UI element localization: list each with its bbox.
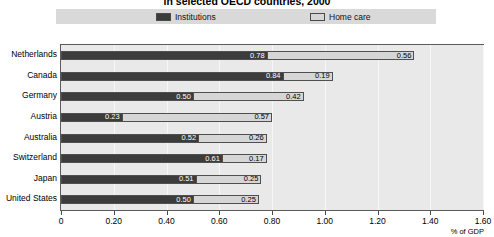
y-axis-label-switzerland: Switzerland bbox=[1, 152, 57, 162]
chart-title-text: in selected OECD countries, 2000 bbox=[0, 0, 494, 7]
bar-row: 0.230.57 bbox=[61, 107, 483, 128]
bar-segment-home-care[interactable]: 0.25 bbox=[193, 195, 259, 204]
stacked-bar[interactable]: 0.500.42 bbox=[61, 92, 304, 101]
x-axis-tick bbox=[272, 211, 273, 215]
y-axis-labels: NetherlandsCanadaGermanyAustriaAustralia… bbox=[0, 44, 57, 211]
bar-value-label: 0.17 bbox=[249, 155, 266, 163]
bar-value-label: 0.23 bbox=[105, 113, 122, 121]
bar-value-label: 0.50 bbox=[176, 93, 193, 101]
stacked-bar[interactable]: 0.500.25 bbox=[61, 195, 259, 204]
bar-segment-institutions[interactable]: 0.52 bbox=[61, 134, 198, 143]
y-axis-label-japan: Japan bbox=[1, 173, 57, 183]
legend-swatch-icon-home-care bbox=[310, 13, 325, 21]
y-axis-label-germany: Germany bbox=[1, 90, 57, 100]
bar-value-label: 0.78 bbox=[250, 52, 267, 60]
bar-value-label: 0.56 bbox=[397, 52, 414, 60]
bar-value-label: 0.52 bbox=[182, 134, 199, 142]
bar-segment-institutions[interactable]: 0.78 bbox=[61, 51, 267, 60]
bar-segment-institutions[interactable]: 0.61 bbox=[61, 154, 222, 163]
x-axis-unit-label: % of GDP bbox=[451, 227, 484, 236]
y-axis-label-netherlands: Netherlands bbox=[1, 49, 57, 59]
x-axis-tick-label: 1.20 bbox=[369, 216, 386, 226]
x-axis-tick-label: 1.00 bbox=[316, 216, 333, 226]
x-axis: % of GDP 00.200.400.600.801.001.201.401.… bbox=[60, 211, 484, 237]
bar-segment-home-care[interactable]: 0.25 bbox=[196, 175, 262, 184]
x-axis-tick-label: 0.20 bbox=[105, 216, 122, 226]
x-axis-tick-label: 0.40 bbox=[158, 216, 175, 226]
legend-label-institutions: Institutions bbox=[175, 12, 216, 22]
stacked-bar[interactable]: 0.610.17 bbox=[61, 154, 267, 163]
legend-swatch-icon-institutions bbox=[156, 13, 171, 21]
gridline bbox=[483, 45, 484, 210]
bar-value-label: 0.42 bbox=[286, 93, 303, 101]
bar-row: 0.840.19 bbox=[61, 66, 483, 87]
x-axis-tick bbox=[430, 211, 431, 215]
bar-segment-institutions[interactable]: 0.84 bbox=[61, 72, 283, 81]
bar-row: 0.520.26 bbox=[61, 128, 483, 149]
y-axis-label-australia: Australia bbox=[1, 132, 57, 142]
bar-segment-home-care[interactable]: 0.42 bbox=[193, 92, 304, 101]
bar-segment-home-care[interactable]: 0.26 bbox=[198, 134, 267, 143]
bar-segment-institutions[interactable]: 0.23 bbox=[61, 113, 122, 122]
bar-segment-home-care[interactable]: 0.19 bbox=[283, 72, 333, 81]
legend-label-home-care: Home care bbox=[329, 12, 371, 22]
y-axis-label-austria: Austria bbox=[1, 111, 57, 121]
bar-value-label: 0.19 bbox=[315, 72, 332, 80]
x-axis-tick bbox=[219, 211, 220, 215]
legend-item-institutions: Institutions bbox=[156, 11, 216, 22]
x-axis-tick bbox=[378, 211, 379, 215]
x-axis-tick bbox=[114, 211, 115, 215]
bar-row: 0.500.42 bbox=[61, 86, 483, 107]
x-axis-tick bbox=[61, 211, 62, 215]
chart-title: in selected OECD countries, 2000 bbox=[0, 0, 494, 9]
bar-segment-home-care[interactable]: 0.57 bbox=[122, 113, 272, 122]
stacked-bar[interactable]: 0.780.56 bbox=[61, 51, 414, 60]
bar-row: 0.780.56 bbox=[61, 45, 483, 66]
bar-row: 0.510.25 bbox=[61, 169, 483, 190]
bar-value-label: 0.25 bbox=[244, 175, 261, 183]
x-axis-tick-label: 0 bbox=[59, 216, 64, 226]
stacked-bar[interactable]: 0.520.26 bbox=[61, 134, 267, 143]
x-axis-tick bbox=[325, 211, 326, 215]
bar-segment-home-care[interactable]: 0.56 bbox=[267, 51, 415, 60]
bar-segment-institutions[interactable]: 0.50 bbox=[61, 195, 193, 204]
bar-value-label: 0.25 bbox=[241, 196, 258, 204]
stacked-bar[interactable]: 0.840.19 bbox=[61, 72, 333, 81]
x-axis-tick-label: 1.40 bbox=[422, 216, 439, 226]
stacked-bar[interactable]: 0.510.25 bbox=[61, 175, 261, 184]
bar-value-label: 0.50 bbox=[176, 196, 193, 204]
plot-area: 0.780.560.840.190.500.420.230.570.520.26… bbox=[60, 44, 484, 211]
stacked-bar[interactable]: 0.230.57 bbox=[61, 113, 272, 122]
bar-value-label: 0.57 bbox=[254, 113, 271, 121]
bar-value-label: 0.26 bbox=[249, 134, 266, 142]
chart-container: in selected OECD countries, 2000 Institu… bbox=[0, 0, 494, 237]
bar-row: 0.500.25 bbox=[61, 189, 483, 210]
x-axis-tick bbox=[483, 211, 484, 215]
bar-value-label: 0.51 bbox=[179, 175, 196, 183]
bar-segment-institutions[interactable]: 0.50 bbox=[61, 92, 193, 101]
x-axis-tick-label: 0.80 bbox=[264, 216, 281, 226]
y-axis-label-canada: Canada bbox=[1, 70, 57, 80]
x-axis-tick-label: 0.60 bbox=[211, 216, 228, 226]
bar-segment-institutions[interactable]: 0.51 bbox=[61, 175, 196, 184]
y-axis-label-united-states: United States bbox=[1, 193, 57, 203]
chart-legend: Institutions Home care bbox=[56, 9, 436, 24]
legend-item-home-care: Home care bbox=[310, 11, 371, 22]
bar-value-label: 0.84 bbox=[266, 72, 283, 80]
bar-value-label: 0.61 bbox=[205, 155, 222, 163]
bar-row: 0.610.17 bbox=[61, 148, 483, 169]
x-axis-tick bbox=[167, 211, 168, 215]
x-axis-tick-label: 1.60 bbox=[475, 216, 492, 226]
bar-segment-home-care[interactable]: 0.17 bbox=[222, 154, 267, 163]
